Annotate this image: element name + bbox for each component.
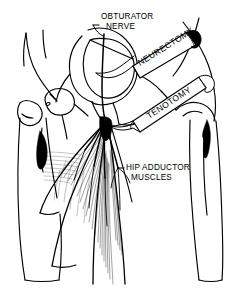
medical-illustration-figure: OBTURATOR NERVE HIP ADDUCTOR MUSCLES NEU… [0, 0, 243, 289]
obturator-nerve-label-line1: OBTURATOR [101, 12, 153, 21]
obturator-nerve-label-line2: NERVE [106, 22, 135, 31]
hip-adductor-label-line1: HIP ADDUCTOR [126, 163, 190, 172]
anatomy-diagram: OBTURATOR NERVE HIP ADDUCTOR MUSCLES NEU… [0, 0, 243, 289]
hip-adductor-label-line2: MUSCLES [131, 173, 172, 182]
